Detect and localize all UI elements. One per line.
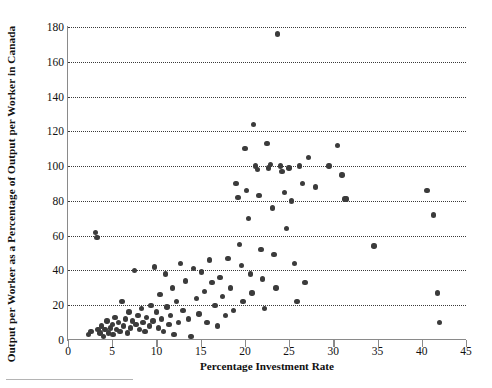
data-point (140, 320, 145, 325)
data-point (225, 256, 230, 261)
data-point (217, 275, 222, 280)
data-point (215, 323, 220, 328)
data-point (156, 325, 161, 330)
data-point (183, 278, 188, 283)
data-point (154, 309, 159, 314)
data-point (244, 188, 249, 193)
data-point (437, 320, 442, 325)
x-tick-mark-20 (245, 340, 246, 347)
data-point (174, 299, 179, 304)
data-point (240, 299, 245, 304)
data-point (163, 271, 168, 276)
x-axis-label: Percentage Investment Rate (68, 360, 466, 372)
data-point (239, 263, 244, 268)
data-point (270, 205, 275, 210)
data-point (300, 181, 305, 186)
data-point (220, 294, 225, 299)
data-point (302, 280, 307, 285)
data-point (94, 235, 99, 240)
data-point (168, 313, 173, 318)
data-point (132, 268, 137, 273)
gridline-y-120 (68, 131, 466, 132)
y-tick-label-180: 180 (30, 21, 64, 33)
data-point (186, 316, 191, 321)
x-tick-mark-15 (201, 340, 202, 347)
gridline-y-80 (68, 201, 466, 202)
data-point (101, 334, 106, 339)
data-point (126, 309, 131, 314)
data-point (271, 252, 276, 257)
x-tick-mark-45 (466, 340, 467, 347)
data-point (282, 190, 287, 195)
data-point (326, 163, 331, 168)
data-point (188, 334, 193, 339)
y-tick-label-140: 140 (30, 91, 64, 103)
data-point (207, 257, 212, 262)
data-point (286, 165, 291, 170)
data-point (233, 181, 238, 186)
y-tick-label-40: 40 (30, 264, 64, 276)
data-point (289, 198, 294, 203)
data-point (313, 184, 318, 189)
x-tick-mark-10 (156, 340, 157, 347)
data-point (431, 212, 436, 217)
y-tick-label-160: 160 (30, 56, 64, 68)
data-point (235, 195, 240, 200)
data-point (117, 329, 122, 334)
data-point (231, 308, 236, 313)
data-point (119, 299, 124, 304)
data-point (294, 299, 299, 304)
data-point (262, 306, 267, 311)
data-point (275, 31, 280, 36)
x-tick-mark-25 (289, 340, 290, 347)
data-point (306, 155, 311, 160)
data-point (147, 323, 152, 328)
data-point (202, 289, 207, 294)
data-point (157, 292, 162, 297)
data-point (335, 143, 340, 148)
data-point (204, 320, 209, 325)
data-point (297, 163, 302, 168)
data-point (249, 290, 254, 295)
data-point (258, 247, 263, 252)
y-axis-label: Output per Worker as a Percentage of Out… (2, 0, 20, 388)
data-point (159, 316, 164, 321)
data-point (255, 167, 260, 172)
data-point (164, 304, 169, 309)
gridline-y-60 (68, 236, 466, 237)
data-point (110, 322, 115, 327)
data-point (424, 188, 429, 193)
data-point (246, 216, 251, 221)
gridline-y-40 (68, 270, 466, 271)
data-point (148, 303, 153, 308)
data-point (152, 264, 157, 269)
data-point (178, 261, 183, 266)
data-point (123, 316, 128, 321)
data-point (161, 329, 166, 334)
data-point (256, 193, 261, 198)
data-point (104, 318, 109, 323)
y-tick-label-80: 80 (30, 195, 64, 207)
data-point (264, 141, 269, 146)
data-point (292, 261, 297, 266)
data-point (170, 285, 175, 290)
y-tick-label-120: 120 (30, 125, 64, 137)
data-point (110, 332, 115, 337)
footer-rule (6, 379, 133, 380)
data-point (142, 329, 147, 334)
x-tick-mark-0 (68, 340, 69, 347)
x-tick-mark-5 (112, 340, 113, 347)
data-point (144, 315, 149, 320)
data-point (180, 308, 185, 313)
data-point (135, 313, 140, 318)
y-tick-label-60: 60 (30, 230, 64, 242)
y-tick-label-20: 20 (30, 299, 64, 311)
data-point (260, 276, 265, 281)
data-point (150, 318, 155, 323)
data-point (166, 322, 171, 327)
data-point (121, 323, 126, 328)
gridline-y-140 (68, 97, 466, 98)
y-axis-tick-labels: 020406080100120140160180 (26, 0, 64, 388)
data-point (139, 306, 144, 311)
x-tick-mark-35 (378, 340, 379, 347)
